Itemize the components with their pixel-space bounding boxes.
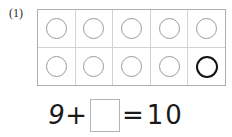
ten-frame-cell-r2c3[interactable] — [113, 48, 151, 85]
problem-number-label: (1) — [9, 6, 23, 20]
ten-frame-cell-r2c1[interactable] — [38, 48, 76, 85]
ten-frame-cell-r2c2[interactable] — [76, 48, 114, 85]
worksheet-problem: (1) — [0, 0, 232, 137]
equation-equals-sign: = — [122, 101, 144, 129]
counter-circle-highlighted-icon — [196, 56, 218, 78]
ten-frame-cell-r1c3[interactable] — [113, 10, 151, 47]
ten-frame-cell-r2c4[interactable] — [151, 48, 189, 85]
equation: 9 + = 10 — [0, 93, 232, 137]
ten-frame-cell-r1c4[interactable] — [151, 10, 189, 47]
counter-circle-icon — [121, 18, 142, 39]
ten-frame-cell-r1c5[interactable] — [188, 10, 225, 47]
counter-circle-icon — [83, 18, 104, 39]
equation-left-operand: 9 — [48, 101, 64, 129]
counter-circle-icon — [196, 18, 217, 39]
ten-frame-row-bottom — [38, 48, 225, 85]
ten-frame-cell-r1c1[interactable] — [38, 10, 76, 47]
ten-frame-cell-r2c5[interactable] — [188, 48, 225, 85]
counter-circle-icon — [83, 56, 104, 77]
equation-plus-operator: + — [65, 101, 87, 129]
counter-circle-icon — [46, 18, 67, 39]
counter-circle-icon — [159, 56, 180, 77]
equation-right-operand: 10 — [147, 101, 184, 129]
counter-circle-icon — [121, 56, 142, 77]
counter-circle-icon — [159, 18, 180, 39]
counter-circle-icon — [46, 56, 67, 77]
answer-input-box[interactable] — [90, 99, 120, 132]
ten-frame-row-top — [38, 10, 225, 48]
ten-frame-cell-r1c2[interactable] — [76, 10, 114, 47]
ten-frame-grid — [37, 9, 226, 86]
